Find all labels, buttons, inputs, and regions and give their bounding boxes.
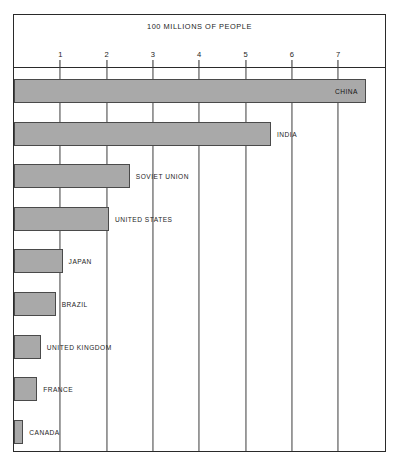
bar bbox=[14, 292, 56, 316]
chart-frame: 100 MILLIONS OF PEOPLE 1234567 CHINAINDI… bbox=[13, 14, 386, 452]
bar-label: UNITED KINGDOM bbox=[47, 343, 112, 350]
x-tick-mark bbox=[152, 60, 153, 67]
bar-series: CHINAINDIASOVIET UNIONUNITED STATESJAPAN… bbox=[14, 67, 385, 451]
chart-title-band: 100 MILLIONS OF PEOPLE bbox=[14, 15, 385, 41]
population-bar-chart: 100 MILLIONS OF PEOPLE 1234567 CHINAINDI… bbox=[0, 0, 400, 465]
bar bbox=[14, 79, 366, 103]
x-tick-label: 2 bbox=[104, 50, 108, 59]
bar bbox=[14, 420, 23, 444]
bar bbox=[14, 164, 130, 188]
bar-row: CANADA bbox=[14, 420, 385, 444]
x-tick-mark bbox=[106, 60, 107, 67]
x-tick-label: 5 bbox=[243, 50, 247, 59]
x-tick-label: 6 bbox=[290, 50, 294, 59]
bar bbox=[14, 207, 109, 231]
bar-row: INDIA bbox=[14, 122, 385, 146]
x-tick-label: 7 bbox=[336, 50, 340, 59]
bar-label: JAPAN bbox=[69, 258, 92, 265]
x-tick-mark bbox=[199, 60, 200, 67]
bar-label: UNITED STATES bbox=[115, 215, 173, 222]
bar bbox=[14, 249, 63, 273]
bar-row: UNITED STATES bbox=[14, 207, 385, 231]
x-tick-mark bbox=[245, 60, 246, 67]
bar-row: BRAZIL bbox=[14, 292, 385, 316]
bar-label: CANADA bbox=[29, 428, 59, 435]
x-tick-label: 3 bbox=[151, 50, 155, 59]
x-tick-mark bbox=[338, 60, 339, 67]
x-tick-label: 1 bbox=[58, 50, 62, 59]
bar bbox=[14, 335, 41, 359]
bar-label: FRANCE bbox=[43, 386, 73, 393]
x-tick-mark bbox=[60, 60, 61, 67]
bar-row: FRANCE bbox=[14, 377, 385, 401]
x-tick-mark bbox=[291, 60, 292, 67]
bar-label: SOVIET UNION bbox=[136, 173, 189, 180]
bar-row: SOVIET UNION bbox=[14, 164, 385, 188]
bar-label: BRAZIL bbox=[62, 301, 88, 308]
plot-area: CHINAINDIASOVIET UNIONUNITED STATESJAPAN… bbox=[14, 67, 385, 451]
bar-row: CHINA bbox=[14, 79, 385, 103]
bar-label: CHINA bbox=[335, 88, 358, 95]
bar bbox=[14, 122, 271, 146]
chart-title: 100 MILLIONS OF PEOPLE bbox=[14, 22, 385, 31]
x-tick-label: 4 bbox=[197, 50, 201, 59]
x-axis: 1234567 bbox=[14, 41, 385, 68]
bar-row: JAPAN bbox=[14, 249, 385, 273]
bar-label: INDIA bbox=[277, 130, 297, 137]
bar bbox=[14, 377, 37, 401]
bar-row: UNITED KINGDOM bbox=[14, 335, 385, 359]
